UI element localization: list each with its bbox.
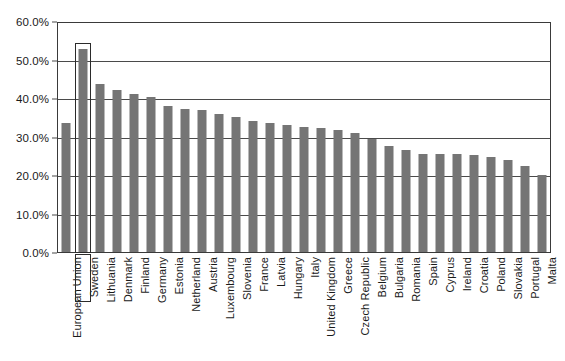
y-axis-tick-label: 60.0% (16, 16, 49, 28)
bar-slot[interactable] (75, 23, 92, 252)
x-axis-category-label: Romania (410, 257, 422, 302)
bar-slot[interactable] (245, 23, 262, 252)
bar-slot[interactable] (177, 23, 194, 252)
bar[interactable] (79, 49, 88, 252)
bar[interactable] (537, 175, 546, 252)
x-axis-category-label: Ireland (461, 257, 473, 291)
bar[interactable] (232, 117, 241, 252)
x-axis-category-label: Greece (342, 257, 354, 294)
bar-slot[interactable] (380, 23, 397, 252)
x-axis-category-label: European Union (71, 257, 83, 338)
bar[interactable] (198, 110, 207, 252)
bar[interactable] (164, 106, 173, 252)
bar[interactable] (452, 154, 461, 252)
y-axis: 0.0%10.0%20.0%30.0%40.0%50.0%60.0% (0, 0, 57, 361)
bar[interactable] (215, 114, 224, 252)
bar-slot[interactable] (414, 23, 431, 252)
bar-slot[interactable] (126, 23, 143, 252)
y-axis-tick-label: 50.0% (16, 55, 49, 67)
x-axis-category-label: Croatia (478, 257, 490, 293)
bars-layer (58, 23, 550, 252)
x-axis-category-label: Cyprus (444, 257, 456, 292)
bar-slot[interactable] (109, 23, 126, 252)
bar[interactable] (266, 123, 275, 252)
bar[interactable] (147, 97, 156, 252)
x-axis-category-label: Germany (156, 257, 168, 303)
y-axis-tick-label: 20.0% (16, 170, 49, 182)
bar[interactable] (333, 130, 342, 252)
x-axis-category-label: Bulgaria (393, 257, 405, 298)
bar[interactable] (367, 139, 376, 252)
bar-slot[interactable] (431, 23, 448, 252)
bar-slot[interactable] (482, 23, 499, 252)
x-axis-category-label: Italy (309, 257, 321, 278)
bar[interactable] (401, 150, 410, 252)
bar-slot[interactable] (397, 23, 414, 252)
bar-slot[interactable] (160, 23, 177, 252)
y-axis-tick-label: 10.0% (16, 209, 49, 221)
x-axis-category-label: Luxembourg (224, 257, 236, 319)
bar-slot[interactable] (262, 23, 279, 252)
x-axis-category-label: Poland (495, 257, 507, 292)
bar-slot[interactable] (499, 23, 516, 252)
x-axis-category-label: Lithuania (105, 257, 117, 303)
x-axis-category-label: Portugal (529, 257, 541, 299)
bar[interactable] (520, 166, 529, 252)
bar[interactable] (249, 121, 258, 252)
x-axis-category-label: Malta (546, 257, 558, 284)
x-axis-category-label: Czech Republic (359, 257, 371, 335)
bar-chart: 0.0%10.0%20.0%30.0%40.0%50.0%60.0% Europ… (0, 0, 565, 361)
bar-slot[interactable] (296, 23, 313, 252)
bar[interactable] (316, 128, 325, 252)
y-axis-tick-label: 40.0% (16, 93, 49, 105)
bar[interactable] (181, 109, 190, 252)
bar[interactable] (62, 123, 71, 252)
x-axis-category-label: Sweden (88, 257, 100, 297)
bar-slot[interactable] (312, 23, 329, 252)
x-axis-category-label: Estonia (173, 257, 185, 294)
bar[interactable] (503, 160, 512, 252)
x-axis-category-label: Hungary (292, 257, 304, 299)
bar-slot[interactable] (194, 23, 211, 252)
bar-slot[interactable] (516, 23, 533, 252)
y-axis-tick-label: 0.0% (22, 247, 49, 259)
x-axis-category-label: Spain (427, 257, 439, 286)
bar[interactable] (350, 133, 359, 252)
bar[interactable] (469, 155, 478, 252)
bar-slot[interactable] (363, 23, 380, 252)
x-axis-category-label: France (258, 257, 270, 292)
bar[interactable] (113, 90, 122, 252)
bar[interactable] (299, 127, 308, 252)
bar[interactable] (435, 154, 444, 252)
x-axis-category-label: Netherland (190, 257, 202, 312)
bar-slot[interactable] (279, 23, 296, 252)
x-axis-labels: European UnionSwedenLithuaniaDenmarkFinl… (58, 254, 550, 361)
bar-slot[interactable] (228, 23, 245, 252)
x-axis-category-label: Latvia (275, 257, 287, 287)
bar-slot[interactable] (92, 23, 109, 252)
x-axis-category-label: Slovakia (512, 257, 524, 299)
bar-slot[interactable] (465, 23, 482, 252)
x-axis-category-label: Denmark (122, 257, 134, 302)
bar[interactable] (384, 146, 393, 252)
x-axis-category-label: Belgium (376, 257, 388, 297)
bar[interactable] (418, 154, 427, 252)
bar-slot[interactable] (211, 23, 228, 252)
bar-slot[interactable] (58, 23, 75, 252)
bar-slot[interactable] (448, 23, 465, 252)
y-axis-tick-label: 30.0% (16, 132, 49, 144)
bar-slot[interactable] (143, 23, 160, 252)
bar-slot[interactable] (329, 23, 346, 252)
x-axis-category-label: United Kingdom (325, 257, 337, 337)
bar[interactable] (283, 125, 292, 252)
bar-slot[interactable] (346, 23, 363, 252)
bar[interactable] (96, 84, 105, 252)
bar-slot[interactable] (533, 23, 550, 252)
x-axis-category-label: Slovenia (241, 257, 253, 300)
x-axis-category-label: Austria (207, 257, 219, 292)
x-axis-category-label: Finland (139, 257, 151, 294)
bar[interactable] (486, 157, 495, 252)
bar[interactable] (130, 94, 139, 252)
